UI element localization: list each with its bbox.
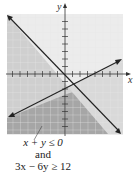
caption-line3: 3x − 6y ≥ 12: [0, 160, 110, 173]
y-axis-arrow-icon: [63, 3, 67, 8]
y-axis-label: y: [56, 1, 62, 12]
x-axis-label: x: [127, 74, 133, 85]
